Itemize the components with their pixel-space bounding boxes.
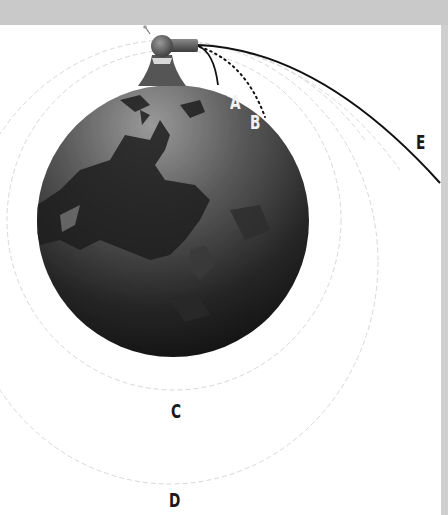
cannonball-diagram bbox=[0, 0, 448, 515]
label-e: E bbox=[416, 133, 425, 152]
label-a: A bbox=[230, 93, 241, 112]
label-d: D bbox=[169, 491, 180, 510]
mountain-snowcap bbox=[152, 58, 172, 64]
cannon-breech bbox=[151, 35, 173, 57]
earth-globe bbox=[30, 85, 309, 357]
label-c: C bbox=[171, 402, 181, 421]
antenna-tip bbox=[143, 25, 147, 29]
label-b: B bbox=[250, 113, 260, 132]
